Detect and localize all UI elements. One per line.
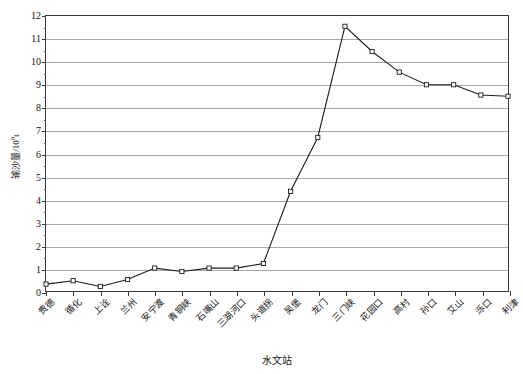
x-axis-tick-label: 利津 <box>502 298 521 317</box>
y-axis-tick-label: 11 <box>31 34 41 44</box>
data-point-marker <box>506 94 510 98</box>
x-axis-tick-label: 循化 <box>65 298 84 317</box>
x-axis-tick-label: 安宁渡 <box>140 298 165 323</box>
data-series <box>46 16 508 291</box>
x-axis-tick-label: 三湖河口 <box>216 298 247 329</box>
x-axis-tick-label: 泺口 <box>474 298 493 317</box>
x-axis-title: 水文站 <box>45 352 509 367</box>
x-axis-tick-mark <box>455 291 456 296</box>
x-axis-tick-label: 艾山 <box>447 298 466 317</box>
y-axis-tick-label: 5 <box>36 173 41 183</box>
x-axis-tick-mark <box>483 291 484 296</box>
x-axis-tick-mark <box>264 291 265 296</box>
x-axis-tick-label: 青铜峡 <box>168 298 193 323</box>
y-axis-tick-label: 2 <box>36 242 41 252</box>
y-axis-tick-label: 0 <box>36 288 41 298</box>
y-axis-tick-label: 8 <box>36 103 41 113</box>
data-point-marker <box>316 135 320 139</box>
x-axis-tick-mark <box>155 291 156 296</box>
x-axis-tick-mark <box>428 291 429 296</box>
data-point-marker <box>370 49 374 53</box>
y-axis-tick-label: 7 <box>36 126 41 136</box>
x-axis-tick-label: 兰州 <box>119 298 138 317</box>
x-axis-tick-label: 吴堡 <box>283 298 302 317</box>
data-point-marker <box>207 266 211 270</box>
x-axis-tick-mark <box>210 291 211 296</box>
x-axis-tick-mark <box>46 291 47 296</box>
data-point-marker <box>479 93 483 97</box>
data-point-marker <box>153 266 157 270</box>
y-axis-tick-label: 9 <box>36 80 41 90</box>
y-axis-tick-label: 1 <box>36 265 41 275</box>
x-axis-tick-mark <box>510 291 511 296</box>
data-point-marker <box>125 277 129 281</box>
x-axis-tick-mark <box>101 291 102 296</box>
y-axis-title: 输沙量/108t <box>9 112 22 202</box>
x-axis-tick-label: 头道拐 <box>250 298 275 323</box>
x-axis-tick-label: 三门峡 <box>332 298 357 323</box>
y-axis-title-unit: t <box>11 134 21 137</box>
y-axis-title-exponent: 8 <box>9 137 17 141</box>
data-point-marker <box>452 83 456 87</box>
y-axis-tick-label: 4 <box>36 196 41 206</box>
y-axis-tick-label: 3 <box>36 219 41 229</box>
y-axis-tick-label: 6 <box>36 150 41 160</box>
y-axis-tick-label: 10 <box>31 57 41 67</box>
y-axis-title-base: 输沙量/10 <box>11 140 21 179</box>
y-axis-tick-label: 12 <box>31 11 41 21</box>
data-point-marker <box>343 24 347 28</box>
x-axis-tick-label: 上诠 <box>92 298 111 317</box>
data-point-marker <box>424 83 428 87</box>
x-axis-tick-mark <box>182 291 183 296</box>
data-point-marker <box>71 279 75 283</box>
x-axis-tick-mark <box>128 291 129 296</box>
data-point-marker <box>180 269 184 273</box>
x-axis-tick-label: 花园口 <box>359 298 384 323</box>
data-point-marker <box>289 189 293 193</box>
series-markers <box>44 24 510 288</box>
x-axis-tick-mark <box>73 291 74 296</box>
series-line <box>46 26 508 286</box>
plot-area: 0123456789101112 贵德循化上诠兰州安宁渡青铜峡石嘴山三湖河口头道… <box>45 15 509 292</box>
x-axis-tick-mark <box>374 291 375 296</box>
x-axis-tick-mark <box>401 291 402 296</box>
x-axis-tick-label: 孙口 <box>420 298 439 317</box>
data-point-marker <box>234 266 238 270</box>
data-point-marker <box>44 282 48 286</box>
x-axis-tick-mark <box>292 291 293 296</box>
data-point-marker <box>261 261 265 265</box>
x-axis-tick-label: 高村 <box>392 298 411 317</box>
x-axis-tick-label: 贵德 <box>38 298 57 317</box>
chart-figure: 输沙量/108t 0123456789101112 贵德循化上诠兰州安宁渡青铜峡… <box>0 0 523 374</box>
x-axis-tick-mark <box>346 291 347 296</box>
x-axis-tick-mark <box>237 291 238 296</box>
x-axis-tick-mark <box>319 291 320 296</box>
x-axis-tick-label: 龙门 <box>310 298 329 317</box>
data-point-marker <box>397 70 401 74</box>
data-point-marker <box>98 284 102 288</box>
